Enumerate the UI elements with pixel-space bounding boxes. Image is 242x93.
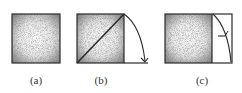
arc bbox=[213, 14, 231, 62]
rotation-arc bbox=[124, 14, 145, 61]
panel-c: (c) bbox=[165, 14, 232, 87]
panel-label-a: (a) bbox=[30, 74, 43, 87]
panel-label-b: (b) bbox=[95, 74, 108, 87]
panel-label-c: (c) bbox=[196, 74, 209, 87]
panel-a: (a) bbox=[12, 14, 60, 87]
panel-b: (b) bbox=[77, 14, 148, 87]
figure-canvas: (a) (b) (c) bbox=[0, 0, 242, 93]
